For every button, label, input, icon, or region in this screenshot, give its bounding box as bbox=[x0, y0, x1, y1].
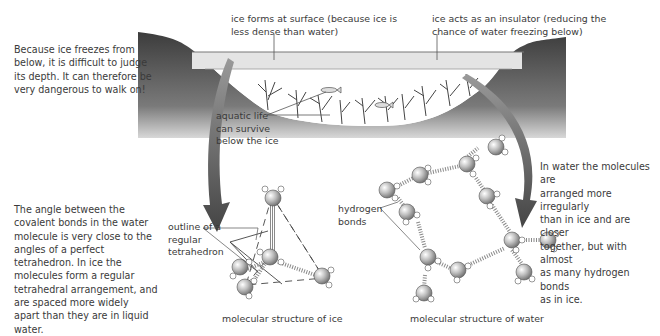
ice-molecules-icon bbox=[230, 186, 334, 299]
insulator-label: ice acts as an insulator (reducing the c… bbox=[432, 13, 606, 38]
ice-surface-label: ice forms at surface (because ice is les… bbox=[231, 13, 397, 38]
tetrahedron-label: outline of a regular tetrahedron bbox=[168, 221, 224, 259]
aquatic-life-label: aquatic life can survive below the ice bbox=[216, 110, 279, 148]
water-structure-caption: molecular structure of water bbox=[410, 313, 544, 326]
hydrogen-bonds-label: hydrogen bonds bbox=[338, 203, 383, 228]
water-molecules-icon bbox=[379, 135, 559, 302]
water-structure-note: In water the molecules are arranged more… bbox=[540, 160, 660, 306]
ice-depth-note: Because ice freezes from below, it is di… bbox=[14, 43, 152, 96]
ice-layer bbox=[192, 52, 522, 69]
tetrahedron-note: The angle between the covalent bonds in … bbox=[14, 203, 158, 336]
ice-structure-caption: molecular structure of ice bbox=[222, 313, 343, 326]
